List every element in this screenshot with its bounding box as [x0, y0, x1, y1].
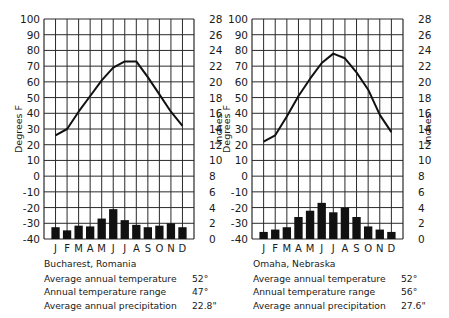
month-label: M [74, 243, 83, 254]
right-axis-tick: 4 [209, 202, 216, 214]
left-axis-tick: 60 [27, 76, 40, 88]
right-axis-tick: 2 [209, 217, 216, 229]
month-label: O [155, 243, 163, 254]
precip-bar [109, 209, 117, 239]
stat-value: 27.6" [401, 299, 426, 312]
stat-label: Average annual temperature [253, 272, 401, 285]
right-axis-tick: 8 [209, 170, 216, 182]
month-label: N [167, 243, 174, 254]
right-axis-tick: 22 [209, 60, 222, 72]
stat-row-precip: Average annual precipitation 27.6" [253, 299, 426, 312]
month-label: J [331, 243, 335, 254]
precip-bar [271, 230, 279, 239]
month-label: J [111, 243, 115, 254]
left-axis-tick: -40 [23, 233, 40, 245]
left-axis-tick: 10 [27, 154, 40, 166]
stat-label: Annual temperature range [44, 285, 192, 298]
month-label: S [145, 243, 151, 254]
stat-label: Annual temperature range [253, 285, 401, 298]
precip-bar [144, 227, 152, 239]
right-axis-tick: 24 [418, 44, 432, 56]
right-axis-tick: 8 [418, 170, 425, 182]
right-axis-tick: 10 [418, 154, 431, 166]
city-title: Bucharest, Romania [44, 257, 217, 270]
right-axis-tick: 10 [209, 154, 222, 166]
left-axis-tick: 100 [20, 13, 40, 25]
precip-bar [341, 208, 349, 239]
precip-bar [98, 219, 106, 239]
precip-bar [294, 217, 302, 239]
chart-omaha: 1002890268024702260205018401630142012101… [221, 13, 433, 254]
stat-row-precip: Average annual precipitation 22.8" [44, 299, 217, 312]
stat-value: 22.8" [192, 299, 217, 312]
right-axis-tick: 26 [418, 29, 432, 41]
stats-omaha: Omaha, Nebraska Average annual temperatu… [253, 257, 426, 312]
month-label: A [295, 243, 302, 254]
left-axis-tick: 50 [235, 92, 248, 104]
precip-bar [387, 232, 395, 239]
right-axis-label: Inches [422, 114, 433, 145]
right-axis-tick: 28 [209, 13, 222, 25]
precip-bar [259, 232, 267, 239]
precip-bar [63, 230, 71, 239]
precip-bar [178, 227, 186, 239]
stat-label: Average annual temperature [44, 272, 192, 285]
left-axis-tick: -30 [231, 217, 248, 229]
right-axis-tick: 2 [418, 217, 425, 229]
month-label: F [272, 243, 278, 254]
month-label: J [122, 243, 126, 254]
left-axis-tick: -20 [231, 202, 248, 214]
month-label: J [53, 243, 57, 254]
left-axis-tick: -20 [23, 202, 40, 214]
left-axis-tick: 10 [235, 154, 248, 166]
right-axis-tick: 26 [209, 29, 223, 41]
stat-value: 52° [192, 272, 208, 285]
precip-bar [364, 226, 372, 239]
left-axis-tick: 40 [235, 107, 248, 119]
month-label: D [388, 243, 396, 254]
left-axis-tick: -40 [231, 233, 248, 245]
left-axis-tick: 70 [27, 60, 40, 72]
left-axis-tick: -30 [23, 217, 40, 229]
month-label: J [261, 243, 265, 254]
chart-bucharest: 1002890268024702260205018401630142012101… [13, 13, 224, 254]
precip-bar [74, 226, 82, 239]
stats-bucharest: Bucharest, Romania Average annual temper… [44, 257, 217, 312]
month-label: F [64, 243, 70, 254]
precip-bar [318, 203, 326, 239]
left-axis-tick: 80 [27, 44, 40, 56]
right-axis-tick: 28 [418, 13, 431, 25]
left-axis-tick: 80 [235, 44, 248, 56]
stat-value: 56° [401, 285, 417, 298]
left-axis-tick: 40 [27, 107, 40, 119]
left-axis-tick: 70 [235, 60, 248, 72]
stat-value: 47° [192, 285, 208, 298]
precip-bar [306, 211, 314, 239]
stat-row-temp-range: Annual temperature range 47° [44, 285, 217, 298]
left-axis-tick: 0 [241, 170, 248, 182]
month-label: M [283, 243, 292, 254]
left-axis-tick: 60 [235, 76, 248, 88]
left-axis-tick: 50 [27, 92, 40, 104]
right-axis-tick: 24 [209, 44, 223, 56]
left-axis-tick: 30 [27, 123, 40, 135]
city-title: Omaha, Nebraska [253, 257, 426, 270]
month-label: A [342, 243, 349, 254]
precip-bar [132, 225, 140, 239]
right-axis-tick: 0 [209, 233, 216, 245]
precip-bar [121, 220, 129, 239]
left-axis-tick: 30 [235, 123, 248, 135]
precip-bar [352, 217, 360, 239]
right-axis-tick: 18 [209, 92, 222, 104]
stat-row-avg-temp: Average annual temperature 52° [253, 272, 426, 285]
precip-bar [167, 223, 175, 239]
left-axis-tick: 0 [33, 170, 40, 182]
precip-bar [376, 230, 384, 239]
precip-bar [51, 227, 59, 239]
left-axis-tick: 90 [235, 29, 248, 41]
right-axis-tick: 20 [418, 76, 431, 88]
precip-bar [329, 212, 337, 239]
left-axis-tick: -10 [231, 186, 248, 198]
stat-row-avg-temp: Average annual temperature 52° [44, 272, 217, 285]
month-label: M [97, 243, 106, 254]
